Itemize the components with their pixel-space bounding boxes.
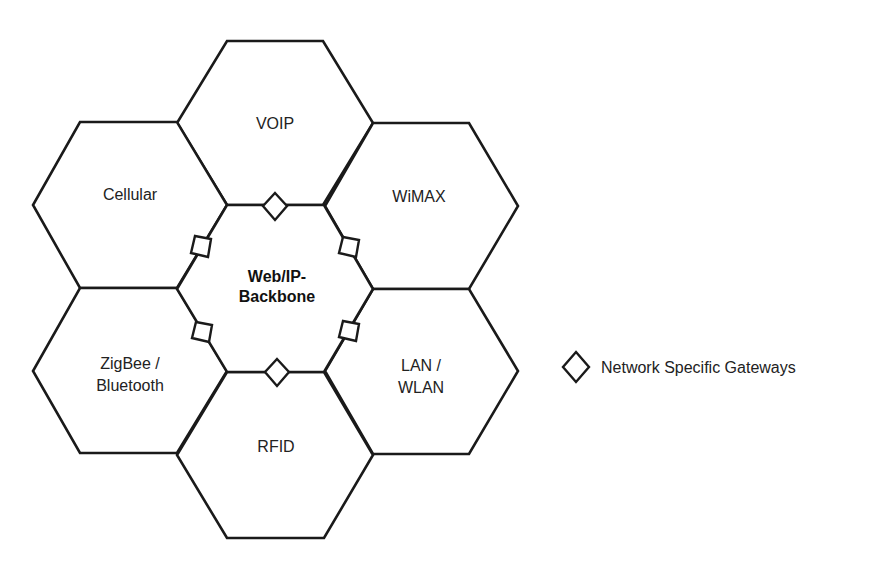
label-lan-line2: WLAN [398, 379, 444, 396]
gateway-diamond-icon [339, 321, 359, 341]
label-backbone-line1: Web/IP- [248, 268, 306, 285]
legend-diamond-icon [563, 352, 589, 382]
label-lan-line1: LAN / [401, 357, 442, 374]
network-hexagon-diagram: VOIP Cellular WiMAX ZigBee / Bluetooth L… [0, 0, 882, 568]
gateway-diamond-icon [339, 237, 359, 257]
label-backbone-line2: Backbone [239, 288, 316, 305]
legend-label: Network Specific Gateways [601, 359, 796, 376]
label-zigbee-line2: Bluetooth [96, 377, 164, 394]
gateway-diamond-icon [191, 236, 211, 257]
label-rfid: RFID [257, 438, 294, 455]
label-wimax: WiMAX [392, 188, 446, 205]
label-cellular: Cellular [103, 186, 158, 203]
gateway-diamond-icon [192, 322, 212, 342]
label-zigbee-line1: ZigBee / [100, 355, 160, 372]
legend: Network Specific Gateways [563, 352, 796, 382]
label-voip: VOIP [256, 115, 294, 132]
